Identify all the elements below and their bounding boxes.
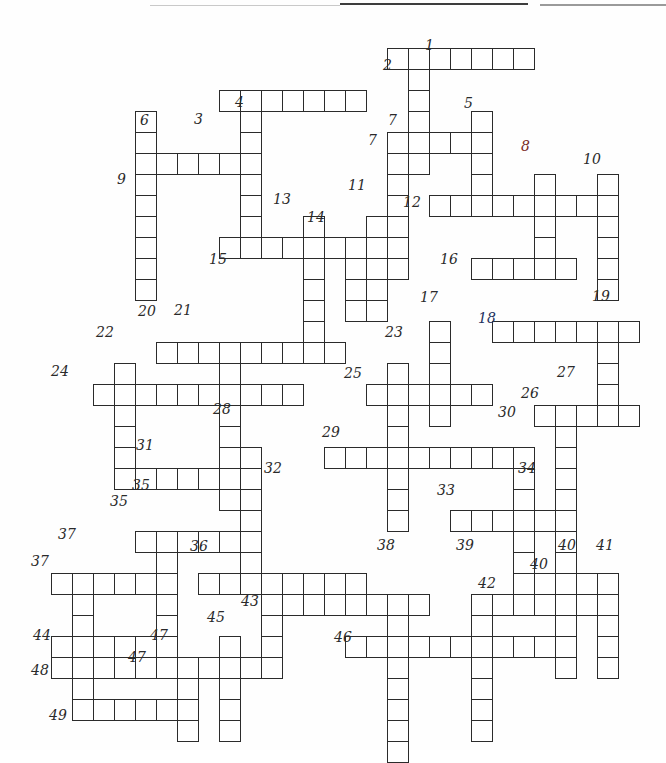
crossword-cell[interactable] bbox=[471, 699, 493, 721]
crossword-cell[interactable] bbox=[219, 678, 241, 700]
crossword-cell[interactable] bbox=[72, 657, 94, 679]
crossword-cell[interactable] bbox=[135, 384, 157, 406]
crossword-cell[interactable] bbox=[93, 573, 115, 595]
crossword-cell[interactable] bbox=[135, 216, 157, 238]
crossword-cell[interactable] bbox=[135, 132, 157, 154]
crossword-cell[interactable] bbox=[303, 594, 325, 616]
crossword-cell[interactable] bbox=[282, 384, 304, 406]
crossword-cell[interactable] bbox=[408, 153, 430, 175]
crossword-cell[interactable] bbox=[366, 279, 388, 301]
crossword-cell[interactable] bbox=[387, 657, 409, 679]
crossword-cell[interactable] bbox=[408, 447, 430, 469]
crossword-cell[interactable] bbox=[471, 720, 493, 742]
crossword-cell[interactable] bbox=[198, 657, 220, 679]
crossword-cell[interactable] bbox=[471, 447, 493, 469]
crossword-cell[interactable] bbox=[303, 279, 325, 301]
crossword-cell[interactable] bbox=[387, 510, 409, 532]
crossword-cell[interactable] bbox=[177, 678, 199, 700]
crossword-cell[interactable] bbox=[408, 636, 430, 658]
crossword-cell[interactable] bbox=[366, 258, 388, 280]
crossword-cell[interactable] bbox=[240, 531, 262, 553]
crossword-cell[interactable] bbox=[114, 363, 136, 385]
crossword-cell[interactable] bbox=[261, 657, 283, 679]
crossword-cell[interactable] bbox=[534, 258, 556, 280]
crossword-cell[interactable] bbox=[72, 615, 94, 637]
crossword-cell[interactable] bbox=[534, 594, 556, 616]
crossword-cell[interactable] bbox=[597, 195, 619, 217]
crossword-cell[interactable] bbox=[324, 342, 346, 364]
crossword-cell[interactable] bbox=[135, 279, 157, 301]
crossword-cell[interactable] bbox=[303, 321, 325, 343]
crossword-cell[interactable] bbox=[513, 489, 535, 511]
crossword-cell[interactable] bbox=[324, 447, 346, 469]
crossword-cell[interactable] bbox=[135, 237, 157, 259]
crossword-cell[interactable] bbox=[513, 636, 535, 658]
crossword-cell[interactable] bbox=[135, 573, 157, 595]
crossword-cell[interactable] bbox=[114, 426, 136, 448]
crossword-cell[interactable] bbox=[261, 573, 283, 595]
crossword-cell[interactable] bbox=[555, 594, 577, 616]
crossword-cell[interactable] bbox=[345, 447, 367, 469]
crossword-cell[interactable] bbox=[429, 321, 451, 343]
crossword-cell[interactable] bbox=[555, 447, 577, 469]
crossword-cell[interactable] bbox=[387, 489, 409, 511]
crossword-cell[interactable] bbox=[408, 594, 430, 616]
crossword-cell[interactable] bbox=[387, 384, 409, 406]
crossword-cell[interactable] bbox=[219, 699, 241, 721]
crossword-cell[interactable] bbox=[387, 405, 409, 427]
crossword-cell[interactable] bbox=[345, 237, 367, 259]
crossword-cell[interactable] bbox=[450, 48, 472, 70]
crossword-cell[interactable] bbox=[219, 447, 241, 469]
crossword-cell[interactable] bbox=[387, 447, 409, 469]
crossword-cell[interactable] bbox=[387, 258, 409, 280]
crossword-cell[interactable] bbox=[366, 594, 388, 616]
crossword-cell[interactable] bbox=[345, 300, 367, 322]
crossword-cell[interactable] bbox=[387, 216, 409, 238]
crossword-cell[interactable] bbox=[450, 636, 472, 658]
crossword-cell[interactable] bbox=[282, 237, 304, 259]
crossword-cell[interactable] bbox=[240, 153, 262, 175]
crossword-cell[interactable] bbox=[555, 405, 577, 427]
crossword-cell[interactable] bbox=[51, 573, 73, 595]
crossword-cell[interactable] bbox=[471, 510, 493, 532]
crossword-cell[interactable] bbox=[219, 468, 241, 490]
crossword-cell[interactable] bbox=[534, 321, 556, 343]
crossword-cell[interactable] bbox=[534, 636, 556, 658]
crossword-cell[interactable] bbox=[597, 657, 619, 679]
crossword-cell[interactable] bbox=[492, 594, 514, 616]
crossword-cell[interactable] bbox=[492, 447, 514, 469]
crossword-cell[interactable] bbox=[345, 279, 367, 301]
crossword-cell[interactable] bbox=[387, 678, 409, 700]
crossword-cell[interactable] bbox=[135, 699, 157, 721]
crossword-cell[interactable] bbox=[576, 594, 598, 616]
crossword-cell[interactable] bbox=[576, 573, 598, 595]
crossword-cell[interactable] bbox=[555, 426, 577, 448]
crossword-cell[interactable] bbox=[261, 615, 283, 637]
crossword-cell[interactable] bbox=[177, 720, 199, 742]
crossword-cell[interactable] bbox=[240, 552, 262, 574]
crossword-cell[interactable] bbox=[534, 216, 556, 238]
crossword-cell[interactable] bbox=[387, 174, 409, 196]
crossword-cell[interactable] bbox=[492, 636, 514, 658]
crossword-cell[interactable] bbox=[597, 636, 619, 658]
crossword-cell[interactable] bbox=[156, 153, 178, 175]
crossword-cell[interactable] bbox=[240, 573, 262, 595]
crossword-cell[interactable] bbox=[366, 447, 388, 469]
crossword-cell[interactable] bbox=[555, 468, 577, 490]
crossword-cell[interactable] bbox=[471, 384, 493, 406]
crossword-cell[interactable] bbox=[198, 468, 220, 490]
crossword-cell[interactable] bbox=[597, 216, 619, 238]
crossword-cell[interactable] bbox=[408, 111, 430, 133]
crossword-cell[interactable] bbox=[324, 573, 346, 595]
crossword-cell[interactable] bbox=[156, 552, 178, 574]
crossword-cell[interactable] bbox=[261, 384, 283, 406]
crossword-cell[interactable] bbox=[240, 132, 262, 154]
crossword-cell[interactable] bbox=[240, 195, 262, 217]
crossword-cell[interactable] bbox=[282, 594, 304, 616]
crossword-cell[interactable] bbox=[387, 720, 409, 742]
crossword-cell[interactable] bbox=[366, 636, 388, 658]
crossword-cell[interactable] bbox=[408, 384, 430, 406]
crossword-cell[interactable] bbox=[387, 594, 409, 616]
crossword-cell[interactable] bbox=[555, 258, 577, 280]
crossword-cell[interactable] bbox=[219, 342, 241, 364]
